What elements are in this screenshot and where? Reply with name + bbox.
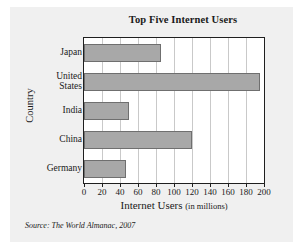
x-tick-label: 0 xyxy=(82,187,87,197)
x-tick-label: 120 xyxy=(185,187,199,197)
bar-germany xyxy=(84,160,126,178)
x-tick-label: 80 xyxy=(152,187,161,197)
y-axis-label-line: China xyxy=(38,134,82,144)
y-axis-label-china: China xyxy=(38,134,82,144)
x-axis-ticks: 020406080100120140160180200 xyxy=(83,184,265,196)
x-tick-label: 20 xyxy=(98,187,107,197)
x-axis-unit-text: (in millions) xyxy=(185,201,227,211)
x-tick-label: 140 xyxy=(203,187,217,197)
y-axis-label-japan: Japan xyxy=(38,47,82,57)
x-axis-title: Internet Users (in millions) xyxy=(83,199,265,211)
y-axis-category-labels: JapanUnitedStatesIndiaChinaGermany xyxy=(38,37,82,182)
bar-row xyxy=(84,96,264,125)
bar-india xyxy=(84,102,129,120)
y-axis-label-line: States xyxy=(38,81,82,91)
bar-japan xyxy=(84,44,161,62)
x-tick-label: 60 xyxy=(134,187,143,197)
bar-row xyxy=(84,67,264,96)
chart-figure-panel: Top Five Internet Users Country JapanUni… xyxy=(10,7,293,242)
y-axis-title: Country xyxy=(24,71,35,141)
chart-title: Top Five Internet Users xyxy=(88,14,278,25)
bar-united-states xyxy=(84,73,260,91)
y-axis-label-line: Japan xyxy=(38,47,82,57)
y-axis-label-line: India xyxy=(38,105,82,115)
x-tick-label: 160 xyxy=(221,187,235,197)
x-tick-label: 40 xyxy=(116,187,125,197)
y-axis-label-united-states: UnitedStates xyxy=(38,71,82,91)
y-axis-label-india: India xyxy=(38,105,82,115)
plot-area xyxy=(83,37,265,184)
y-axis-label-line: Germany xyxy=(38,163,82,173)
bar-row xyxy=(84,38,264,67)
x-axis-title-text: Internet Users xyxy=(120,199,182,211)
bar-row xyxy=(84,125,264,154)
y-axis-label-germany: Germany xyxy=(38,163,82,173)
source-note: Source: The World Almanac, 2007 xyxy=(25,221,135,230)
bar-row xyxy=(84,154,264,183)
bar-series xyxy=(84,38,264,183)
x-tick-label: 180 xyxy=(239,187,253,197)
x-tick-label: 200 xyxy=(257,187,271,197)
bar-china xyxy=(84,131,192,149)
x-tick-label: 100 xyxy=(167,187,181,197)
y-axis-label-line: United xyxy=(38,71,82,81)
